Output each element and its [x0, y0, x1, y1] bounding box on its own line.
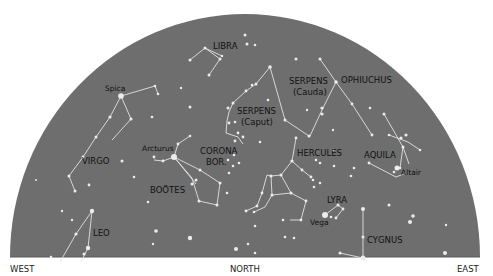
label-aquila: AQUILA — [364, 150, 396, 160]
label-spica: Spica — [105, 84, 125, 93]
label-libra: LIBRA — [213, 41, 238, 51]
label-cygnus: CYGNUS — [367, 235, 403, 245]
label-west: WEST — [10, 264, 35, 274]
label-altair: Altair — [401, 168, 422, 177]
label-leo: LEO — [93, 228, 110, 238]
label-virgo: VIRGO — [82, 156, 110, 166]
star-altair — [395, 166, 400, 171]
label-serpens-caput: SERPENS — [237, 106, 276, 116]
label-bootes: BOÖTES — [150, 185, 185, 195]
label-vega: Vega — [310, 218, 329, 227]
label-east: EAST — [457, 264, 480, 274]
label-north: NORTH — [230, 264, 260, 274]
label-hercules: HERCULES — [297, 148, 342, 158]
label-corona: CORONA — [200, 146, 238, 156]
star-spica — [118, 93, 124, 99]
label-serpens-caput-sub: (Caput) — [241, 117, 273, 127]
star-chart: LIBRA Spica VIRGO Arcturus CORONA BOR. B… — [0, 0, 493, 276]
label-lyra: LYRA — [327, 195, 347, 205]
label-ophiuchus: OPHIUCHUS — [341, 75, 392, 85]
label-arcturus: Arcturus — [142, 144, 174, 153]
direction-labels: WEST NORTH EAST — [10, 264, 480, 274]
label-serpens-cauda-sub: (Cauda) — [293, 87, 327, 97]
star-arcturus — [171, 154, 177, 160]
label-corona-bor: BOR. — [206, 157, 227, 167]
label-serpens-cauda: SERPENS — [289, 76, 328, 86]
